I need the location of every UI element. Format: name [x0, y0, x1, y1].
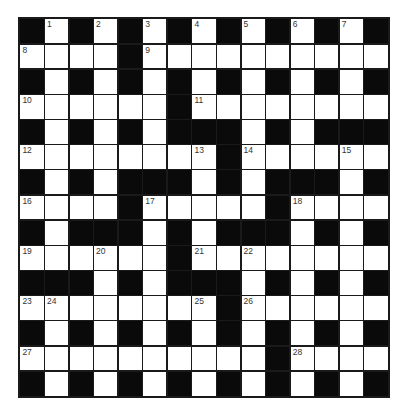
- letter-cell[interactable]: 14: [242, 145, 265, 169]
- letter-cell[interactable]: [94, 296, 117, 320]
- letter-cell[interactable]: [315, 95, 338, 119]
- letter-cell[interactable]: [340, 271, 363, 295]
- letter-cell[interactable]: 16: [20, 196, 43, 220]
- letter-cell[interactable]: [340, 372, 363, 396]
- letter-cell[interactable]: [94, 95, 117, 119]
- letter-cell[interactable]: [168, 196, 191, 220]
- letter-cell[interactable]: [192, 70, 215, 94]
- letter-cell[interactable]: [364, 296, 387, 320]
- letter-cell[interactable]: 10: [20, 95, 43, 119]
- letter-cell[interactable]: [45, 145, 68, 169]
- letter-cell[interactable]: [242, 70, 265, 94]
- letter-cell[interactable]: [70, 296, 93, 320]
- letter-cell[interactable]: [340, 246, 363, 270]
- letter-cell[interactable]: [45, 70, 68, 94]
- letter-cell[interactable]: [364, 196, 387, 220]
- letter-cell[interactable]: [192, 221, 215, 245]
- letter-cell[interactable]: [94, 372, 117, 396]
- letter-cell[interactable]: [94, 271, 117, 295]
- letter-cell[interactable]: [143, 95, 166, 119]
- letter-cell[interactable]: [242, 347, 265, 371]
- letter-cell[interactable]: [192, 321, 215, 345]
- letter-cell[interactable]: [340, 196, 363, 220]
- letter-cell[interactable]: [242, 271, 265, 295]
- letter-cell[interactable]: 8: [20, 45, 43, 69]
- letter-cell[interactable]: [168, 145, 191, 169]
- letter-cell[interactable]: [45, 246, 68, 270]
- letter-cell[interactable]: [364, 45, 387, 69]
- letter-cell[interactable]: [192, 372, 215, 396]
- letter-cell[interactable]: [143, 347, 166, 371]
- letter-cell[interactable]: 21: [192, 246, 215, 270]
- letter-cell[interactable]: [45, 347, 68, 371]
- letter-cell[interactable]: 3: [143, 19, 166, 43]
- letter-cell[interactable]: [242, 321, 265, 345]
- letter-cell[interactable]: [45, 372, 68, 396]
- letter-cell[interactable]: [340, 221, 363, 245]
- letter-cell[interactable]: [168, 347, 191, 371]
- letter-cell[interactable]: [291, 70, 314, 94]
- letter-cell[interactable]: 1: [45, 19, 68, 43]
- letter-cell[interactable]: [45, 221, 68, 245]
- letter-cell[interactable]: [242, 170, 265, 194]
- letter-cell[interactable]: [192, 45, 215, 69]
- letter-cell[interactable]: 5: [242, 19, 265, 43]
- letter-cell[interactable]: [143, 372, 166, 396]
- letter-cell[interactable]: 17: [143, 196, 166, 220]
- letter-cell[interactable]: [94, 170, 117, 194]
- letter-cell[interactable]: [291, 120, 314, 144]
- letter-cell[interactable]: [143, 70, 166, 94]
- letter-cell[interactable]: [315, 246, 338, 270]
- letter-cell[interactable]: [315, 296, 338, 320]
- letter-cell[interactable]: [94, 45, 117, 69]
- letter-cell[interactable]: 13: [192, 145, 215, 169]
- letter-cell[interactable]: 12: [20, 145, 43, 169]
- letter-cell[interactable]: [143, 120, 166, 144]
- letter-cell[interactable]: 20: [94, 246, 117, 270]
- letter-cell[interactable]: [70, 145, 93, 169]
- letter-cell[interactable]: [364, 246, 387, 270]
- letter-cell[interactable]: 23: [20, 296, 43, 320]
- letter-cell[interactable]: 2: [94, 19, 117, 43]
- letter-cell[interactable]: [94, 145, 117, 169]
- letter-cell[interactable]: [192, 170, 215, 194]
- letter-cell[interactable]: [45, 321, 68, 345]
- letter-cell[interactable]: [266, 45, 289, 69]
- letter-cell[interactable]: [70, 196, 93, 220]
- letter-cell[interactable]: 7: [340, 19, 363, 43]
- letter-cell[interactable]: [217, 196, 240, 220]
- letter-cell[interactable]: [45, 45, 68, 69]
- letter-cell[interactable]: [340, 95, 363, 119]
- letter-cell[interactable]: 28: [291, 347, 314, 371]
- letter-cell[interactable]: 18: [291, 196, 314, 220]
- letter-cell[interactable]: [143, 221, 166, 245]
- letter-cell[interactable]: [340, 321, 363, 345]
- letter-cell[interactable]: [192, 196, 215, 220]
- letter-cell[interactable]: [119, 296, 142, 320]
- letter-cell[interactable]: 19: [20, 246, 43, 270]
- letter-cell[interactable]: 15: [340, 145, 363, 169]
- letter-cell[interactable]: [45, 95, 68, 119]
- letter-cell[interactable]: 25: [192, 296, 215, 320]
- letter-cell[interactable]: [291, 246, 314, 270]
- letter-cell[interactable]: [291, 221, 314, 245]
- letter-cell[interactable]: [364, 347, 387, 371]
- letter-cell[interactable]: [119, 246, 142, 270]
- letter-cell[interactable]: [291, 296, 314, 320]
- letter-cell[interactable]: [340, 296, 363, 320]
- letter-cell[interactable]: [340, 70, 363, 94]
- letter-cell[interactable]: [143, 321, 166, 345]
- letter-cell[interactable]: [315, 347, 338, 371]
- letter-cell[interactable]: [119, 145, 142, 169]
- letter-cell[interactable]: 27: [20, 347, 43, 371]
- letter-cell[interactable]: [291, 372, 314, 396]
- letter-cell[interactable]: [364, 95, 387, 119]
- letter-cell[interactable]: [70, 246, 93, 270]
- letter-cell[interactable]: [291, 45, 314, 69]
- letter-cell[interactable]: [291, 145, 314, 169]
- letter-cell[interactable]: [242, 196, 265, 220]
- letter-cell[interactable]: 6: [291, 19, 314, 43]
- letter-cell[interactable]: 4: [192, 19, 215, 43]
- letter-cell[interactable]: [217, 45, 240, 69]
- letter-cell[interactable]: [315, 45, 338, 69]
